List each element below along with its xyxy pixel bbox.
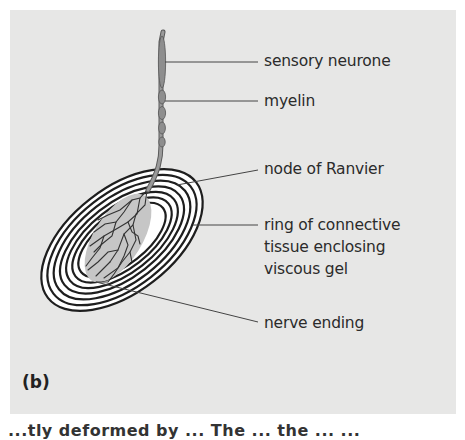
label-myelin: myelin: [264, 91, 315, 112]
panel-letter: (b): [22, 372, 50, 392]
label-node-of-ranvier: node of Ranvier: [264, 159, 384, 180]
label-ring-line3: viscous gel: [264, 259, 348, 280]
label-sensory-neurone: sensory neurone: [264, 51, 391, 72]
myelin-sheath: [158, 36, 165, 147]
sensory-neurone-axon: [148, 32, 166, 190]
caption-cutoff-text: ...tly deformed by ... The ... the ... .…: [8, 421, 360, 440]
label-ring-line1: ring of connective: [264, 215, 400, 236]
label-ring-line2: tissue enclosing: [264, 237, 385, 258]
label-nerve-ending: nerve ending: [264, 313, 364, 334]
